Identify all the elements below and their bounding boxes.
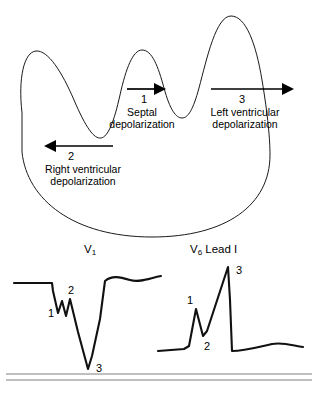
figure-container: 1 Septal depolarization 3 Left ventricul… [0, 0, 318, 395]
ecg-v1-annotation-3: 3 [96, 362, 102, 374]
ecg-v6-annotation-2: 2 [204, 340, 210, 352]
ecg-lead-v6-main: V [190, 243, 198, 255]
septal-label-line2: depolarization [104, 119, 180, 131]
right-ventricular-label-line1: Right ventricular [31, 164, 135, 176]
septal-arrow-head [154, 83, 166, 95]
left-ventricular-arrow-number: 3 [239, 93, 245, 105]
left-ventricular-label-line1: Left ventricular [193, 107, 297, 119]
left-ventricular-label-line2: depolarization [193, 119, 297, 131]
ecg-trace-v6-lead-i [158, 267, 303, 351]
left-ventricular-arrow-head [282, 83, 294, 95]
figure-svg [0, 0, 318, 395]
ecg-v1-annotation-1: 1 [48, 307, 54, 319]
ecg-lead-v6-sub: 6 [198, 248, 202, 257]
ecg-v1-annotation-2: 2 [68, 284, 74, 296]
ecg-lead-v1-main: V [84, 243, 92, 255]
ecg-lead-v1-sub: 1 [92, 248, 96, 257]
figure-caption [6, 388, 312, 395]
ecg-trace-v1 [14, 276, 161, 369]
ecg-v6-annotation-3: 3 [236, 264, 242, 276]
right-ventricular-label-line2: depolarization [31, 176, 135, 188]
ecg-lead-label-v6-lead-i: V6 Lead I [190, 243, 237, 256]
right-ventricular-arrow-number: 2 [68, 150, 74, 162]
ecg-lead-label-v1: V1 [84, 243, 96, 256]
ecg-v6-annotation-1: 1 [187, 294, 193, 306]
right-ventricular-arrow-head [44, 140, 56, 152]
ecg-lead-v6-suffix: Lead I [202, 243, 237, 255]
septal-label-line1: Septal [104, 107, 180, 119]
septal-arrow-number: 1 [141, 93, 147, 105]
